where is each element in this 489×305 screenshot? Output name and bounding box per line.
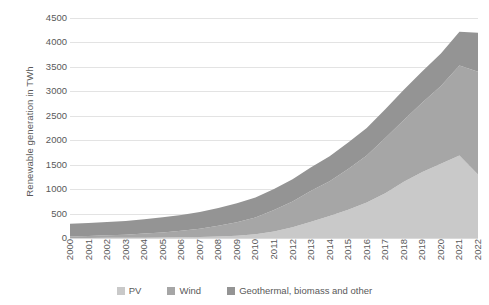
x-axis-tick-label: 2011 [269,239,279,281]
legend-label: Wind [179,285,201,296]
x-axis-tick-label: 2018 [399,239,409,281]
x-axis-tick-labels: 2000200120022003200420052006200720082009… [70,239,478,281]
x-axis-tick-label: 2003 [121,239,131,281]
y-axis-title: Renewable generation in TWh [24,27,35,237]
x-axis-tick-label: 2016 [362,239,372,281]
x-axis-tick-label: 2007 [195,239,205,281]
y-axis-tick-label: 500 [27,209,67,219]
y-axis-tick-label: 1000 [27,184,67,194]
x-axis-tick-label: 2010 [250,239,260,281]
chart-legend: PVWindGeothermal, biomass and other [0,285,489,296]
x-axis-tick-label: 2021 [454,239,464,281]
stacked-area-chart: Renewable generation in TWh 450040003500… [0,0,489,305]
x-axis-tick-label: 2001 [84,239,94,281]
x-axis-tick-label: 2006 [176,239,186,281]
x-axis-tick-label: 2022 [473,239,483,281]
y-axis-tick-label: 2000 [27,135,67,145]
y-axis-tick-label: 3000 [27,87,67,97]
plot-area [70,18,478,238]
x-axis-tick-label: 2020 [436,239,446,281]
y-axis-tick-label: 2500 [27,111,67,121]
legend-swatch-icon [227,287,235,295]
x-axis-tick-label: 2002 [102,239,112,281]
x-axis-tick-label: 2017 [380,239,390,281]
x-axis-tick-label: 2013 [306,239,316,281]
y-axis-tick-label: 0 [27,233,67,243]
legend-item[interactable]: PV [117,285,142,296]
x-axis-tick-label: 2019 [417,239,427,281]
y-axis-tick-label: 1500 [27,160,67,170]
x-axis-tick-label: 2012 [288,239,298,281]
x-axis-tick-label: 2005 [158,239,168,281]
legend-swatch-icon [167,287,175,295]
y-axis-tick-label: 4000 [27,38,67,48]
x-axis-tick-label: 2015 [343,239,353,281]
area-series-group [70,18,478,238]
y-axis-tick-label: 4500 [27,13,67,23]
legend-item[interactable]: Wind [167,285,201,296]
legend-label: Geothermal, biomass and other [239,285,372,296]
legend-label: PV [129,285,142,296]
x-axis-tick-label: 2008 [213,239,223,281]
x-axis-tick-label: 2009 [232,239,242,281]
x-axis-tick-label: 2004 [139,239,149,281]
legend-swatch-icon [117,287,125,295]
legend-item[interactable]: Geothermal, biomass and other [227,285,372,296]
x-axis-tick-label: 2014 [325,239,335,281]
x-axis-tick-label: 2000 [65,239,75,281]
y-axis-tick-label: 3500 [27,62,67,72]
